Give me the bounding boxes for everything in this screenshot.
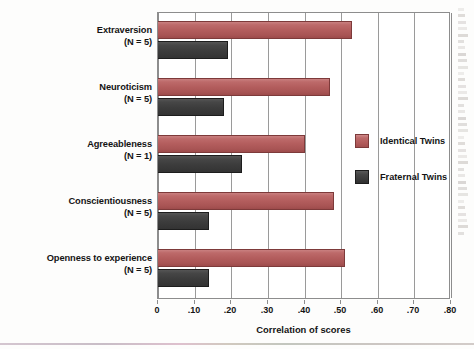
- legend-swatch-icon-identical: [355, 134, 369, 148]
- bar-agreeableness-identical-twins: [158, 135, 305, 153]
- margin-text-line: [458, 85, 466, 88]
- x-tick-mark: [340, 300, 341, 304]
- margin-text-line: [458, 27, 467, 30]
- legend-swatch-icon-fraternal: [355, 170, 369, 184]
- category-label-conscientiousness: Conscientiousness (N = 5): [0, 195, 152, 219]
- margin-text-line: [458, 161, 468, 164]
- x-tick-label: .30: [261, 305, 274, 315]
- margin-text-line: [458, 46, 465, 49]
- margin-text-line: [458, 187, 467, 190]
- legend-item-fraternal-twins: Fraternal Twins: [355, 164, 450, 190]
- page-bottom-rule: [0, 343, 474, 345]
- margin-text-line: [458, 149, 466, 152]
- margin-text-line: [458, 14, 465, 17]
- x-tick-label: .20: [224, 305, 237, 315]
- margin-text-line: [458, 117, 466, 120]
- category-label-neuroticism: Neuroticism (N = 5): [0, 81, 152, 105]
- bar-openness-to-experience-fraternal-twins: [158, 269, 209, 287]
- x-tick-label: .60: [371, 305, 384, 315]
- category-label-openness: Openness to experience (N = 5): [0, 252, 152, 276]
- bar-conscientiousness-identical-twins: [158, 192, 334, 210]
- category-n: (N = 1): [0, 150, 152, 162]
- x-tick-mark: [450, 300, 451, 304]
- bar-conscientiousness-fraternal-twins: [158, 212, 209, 230]
- category-name: Openness to experience: [47, 253, 152, 263]
- margin-text-line: [458, 123, 467, 126]
- margin-text-line: [458, 225, 468, 228]
- category-n: (N = 5): [0, 93, 152, 105]
- margin-text-line: [458, 110, 465, 113]
- margin-text-line: [458, 193, 468, 196]
- margin-text-line: [458, 104, 464, 107]
- legend-label-identical: Identical Twins: [380, 136, 445, 146]
- margin-text-line: [458, 97, 468, 100]
- margin-text-line: [458, 21, 466, 24]
- margin-text-line: [458, 168, 464, 171]
- category-label-agreeableness: Agreeableness (N = 1): [0, 138, 152, 162]
- margin-text-line: [458, 200, 464, 203]
- margin-text-line: [458, 142, 465, 145]
- margin-text-line: [458, 72, 464, 75]
- margin-text-line: [458, 136, 464, 139]
- x-tick-label: .50: [334, 305, 347, 315]
- margin-text-line: [458, 174, 465, 177]
- category-name: Agreeableness: [87, 139, 152, 149]
- legend-label-fraternal: Fraternal Twins: [380, 172, 447, 182]
- bar-extraversion-fraternal-twins: [158, 41, 228, 59]
- category-n: (N = 5): [0, 36, 152, 48]
- margin-text-line: [458, 213, 466, 216]
- bar-openness-to-experience-identical-twins: [158, 249, 345, 267]
- margin-text-line: [458, 129, 468, 132]
- category-name: Conscientiousness: [68, 196, 152, 206]
- chart-legend: Identical Twins Fraternal Twins: [355, 128, 450, 200]
- x-tick-mark: [194, 300, 195, 304]
- x-axis: 0.10.20.30.40.50.60.70.80: [157, 300, 450, 320]
- category-n: (N = 5): [0, 207, 152, 219]
- margin-text-line: [458, 232, 464, 235]
- bar-agreeableness-fraternal-twins: [158, 155, 242, 173]
- margin-text-line: [458, 40, 464, 43]
- margin-text-line: [458, 181, 466, 184]
- x-tick-mark: [413, 300, 414, 304]
- legend-item-identical-twins: Identical Twins: [355, 128, 450, 154]
- chart-figure: Extraversion (N = 5) Neuroticism (N = 5)…: [0, 0, 474, 349]
- x-tick-label: 0: [154, 305, 159, 315]
- margin-text-line: [458, 59, 467, 62]
- margin-text-line: [458, 206, 465, 209]
- margin-text-line: [458, 34, 468, 37]
- x-tick-label: .10: [188, 305, 201, 315]
- x-tick-mark: [377, 300, 378, 304]
- x-tick-mark: [304, 300, 305, 304]
- x-tick-label: .40: [298, 305, 311, 315]
- x-tick-mark: [230, 300, 231, 304]
- category-axis-labels: Extraversion (N = 5) Neuroticism (N = 5)…: [0, 12, 152, 299]
- category-name: Neuroticism: [99, 82, 152, 92]
- margin-text-line: [458, 53, 466, 56]
- margin-text-line: [458, 78, 465, 81]
- bar-neuroticism-identical-twins: [158, 78, 330, 96]
- category-label-extraversion: Extraversion (N = 5): [0, 24, 152, 48]
- margin-text-line: [458, 219, 467, 222]
- x-axis-title: Correlation of scores: [157, 324, 450, 335]
- margin-text-line: [458, 8, 464, 11]
- margin-text-line: [458, 155, 467, 158]
- category-n: (N = 5): [0, 264, 152, 276]
- x-tick-mark: [267, 300, 268, 304]
- x-tick-label: .80: [444, 305, 457, 315]
- margin-text-line: [458, 91, 467, 94]
- x-tick-mark: [157, 300, 158, 304]
- page-margin-text-sliver: [458, 8, 474, 308]
- x-tick-label: .70: [407, 305, 420, 315]
- bar-neuroticism-fraternal-twins: [158, 98, 224, 116]
- margin-text-line: [458, 66, 468, 69]
- bar-extraversion-identical-twins: [158, 21, 352, 39]
- category-name: Extraversion: [97, 25, 152, 35]
- gridline: [451, 13, 452, 298]
